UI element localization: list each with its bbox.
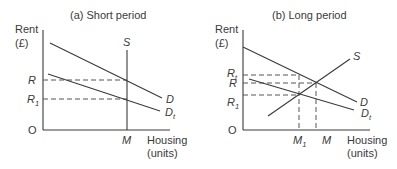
panel-b-y-axis-label-line1: Rent bbox=[215, 23, 238, 35]
panel-a-x-axis-label-line2: (units) bbox=[147, 147, 178, 159]
panel-a-x-tick-m: M bbox=[122, 134, 132, 146]
panel-b-origin-label: O bbox=[228, 124, 237, 136]
panel-b-y-tick-r1: R1 bbox=[227, 96, 239, 111]
panel-a-demand-label-dt: Dt bbox=[165, 106, 176, 121]
panel-b-supply-curve bbox=[268, 59, 350, 116]
panel-b-supply-label: S bbox=[353, 50, 361, 62]
panel-b-y-axis-label-line2: (£) bbox=[215, 37, 228, 49]
panel-long-period: (b) Long period Rent (£) O Rt R R1 D Dt … bbox=[215, 9, 387, 159]
panel-b-y-tick-r: R bbox=[229, 77, 237, 89]
panel-b-x-tick-m: M bbox=[322, 134, 332, 146]
panel-a-supply-label: S bbox=[123, 36, 131, 48]
panel-b-x-axis-label-line1: Housing bbox=[347, 134, 387, 146]
panel-a-y-tick-r: R bbox=[28, 74, 36, 86]
rent-housing-diagram: (a) Short period Rent (£) O R R1 S D Dt … bbox=[0, 0, 397, 169]
panel-a-title: (a) Short period bbox=[70, 9, 146, 21]
panel-a-y-tick-r1: R1 bbox=[27, 93, 39, 108]
panel-a-x-axis-label-line1: Housing bbox=[147, 134, 187, 146]
panel-a-origin-label: O bbox=[28, 124, 37, 136]
panel-short-period: (a) Short period Rent (£) O R R1 S D Dt … bbox=[15, 9, 187, 159]
panel-a-demand-curve-d bbox=[50, 43, 162, 98]
panel-b-title: (b) Long period bbox=[272, 9, 347, 21]
panel-b-x-axis-label-line2: (units) bbox=[347, 147, 378, 159]
panel-a-y-axis-label-line2: (£) bbox=[15, 37, 28, 49]
panel-b-x-tick-m1: M1 bbox=[293, 134, 306, 149]
panel-b-demand-curve-dt bbox=[249, 79, 354, 110]
panel-a-demand-label-d: D bbox=[166, 93, 174, 105]
panel-a-y-axis-label-line1: Rent bbox=[15, 23, 38, 35]
panel-b-demand-label-dt: Dt bbox=[361, 107, 372, 122]
